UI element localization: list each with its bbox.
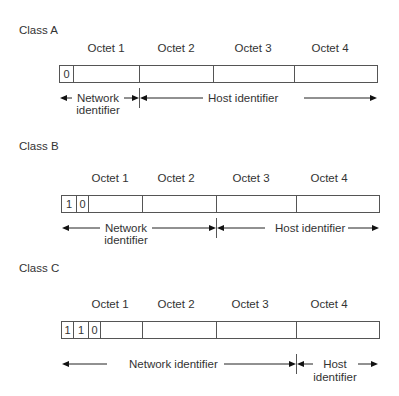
class-a-title: Class A (19, 24, 58, 36)
arrow-right-icon (289, 361, 296, 367)
class-b-octet-1-label: Octet 1 (91, 172, 128, 184)
class-b-bit-1: 0 (79, 198, 85, 210)
class-c-section: Class C Octet 1 Octet 2 Octet 3 Octet 4 … (19, 262, 380, 383)
class-b-network-label-line-1: Network (105, 222, 147, 234)
class-a-address-box (60, 66, 378, 83)
arrow-left-icon (217, 225, 224, 231)
class-b-octet-2-label: Octet 2 (157, 172, 194, 184)
class-a-octet-1-label: Octet 1 (87, 42, 124, 54)
class-b-octet-3-label: Octet 3 (232, 172, 269, 184)
class-c-octet-3-label: Octet 3 (231, 298, 268, 310)
arrow-right-icon (371, 361, 378, 367)
arrow-right-icon (372, 225, 379, 231)
class-c-octet-1-label: Octet 1 (91, 298, 128, 310)
arrow-right-icon (370, 95, 377, 101)
class-c-network-label: Network identifier (129, 358, 218, 370)
class-a-octet-2-label: Octet 2 (157, 42, 194, 54)
arrow-left-icon (62, 225, 69, 231)
class-b-host-label: Host identifier (275, 222, 345, 234)
class-c-bit-1: 1 (78, 324, 84, 336)
class-a-host-label: Host identifier (208, 92, 278, 104)
arrow-left-icon (60, 95, 67, 101)
class-a-bit-0: 0 (63, 68, 69, 80)
class-b-octet-4-label: Octet 4 (310, 172, 348, 184)
class-c-bit-2: 0 (91, 324, 97, 336)
class-c-host-label-line-1: Host (323, 358, 347, 370)
class-c-octet-2-label: Octet 2 (157, 298, 194, 310)
class-b-section: Class B Octet 1 Octet 2 Octet 3 Octet 4 … (19, 140, 380, 246)
class-c-octet-4-label: Octet 4 (310, 298, 348, 310)
class-c-bit-0: 1 (64, 324, 70, 336)
arrow-left-icon (297, 361, 304, 367)
class-c-address-box (62, 322, 380, 339)
class-a-network-label-line-2: identifier (76, 104, 120, 116)
class-a-octet-3-label: Octet 3 (234, 42, 271, 54)
arrow-right-icon (209, 225, 216, 231)
class-b-address-box (62, 196, 380, 213)
class-a-section: Class A Octet 1 Octet 2 Octet 3 Octet 4 … (19, 24, 378, 116)
class-c-title: Class C (19, 262, 59, 274)
arrow-left-icon (140, 95, 147, 101)
ip-address-classes-diagram: Class A Octet 1 Octet 2 Octet 3 Octet 4 … (0, 0, 399, 396)
class-b-title: Class B (19, 140, 59, 152)
class-b-bit-0: 1 (66, 198, 72, 210)
class-a-network-label-line-1: Network (77, 92, 119, 104)
class-b-network-label-line-2: identifier (104, 234, 148, 246)
arrow-left-icon (62, 361, 69, 367)
class-c-host-label-line-2: identifier (313, 371, 357, 383)
arrow-right-icon (132, 95, 139, 101)
class-a-octet-4-label: Octet 4 (311, 42, 349, 54)
